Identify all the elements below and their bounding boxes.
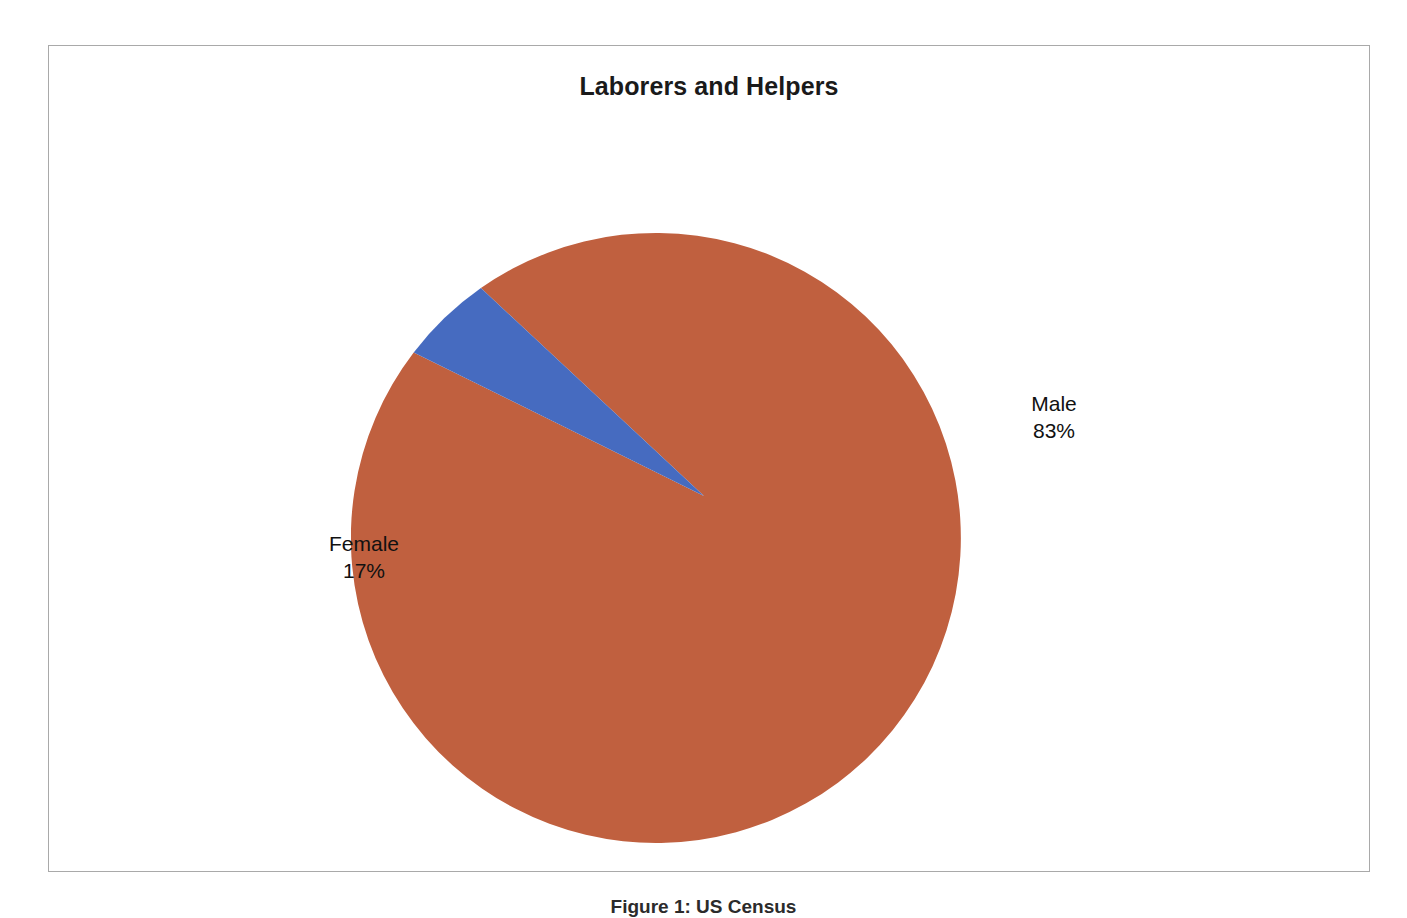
pie-chart-graphic (351, 146, 1071, 866)
pie-slices (351, 233, 961, 843)
figure-caption: Figure 1: US Census (0, 896, 1407, 918)
pie-label-female: Female 17% (289, 531, 439, 585)
pie-label-male: Male 83% (979, 391, 1129, 445)
figure-frame: Laborers and Helpers Male 83% Female 17% (48, 45, 1370, 872)
pie-chart-plot-area: Male 83% Female 17% (49, 46, 1369, 871)
